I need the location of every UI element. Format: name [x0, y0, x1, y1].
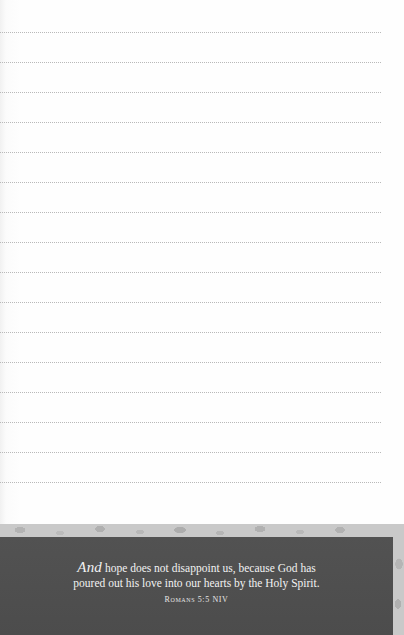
ruled-line: [0, 32, 381, 33]
verse-box: And hope does not disappoint us, because…: [0, 537, 393, 635]
ruled-lines: [0, 0, 381, 520]
journal-page: And hope does not disappoint us, because…: [0, 0, 404, 635]
ruled-line: [0, 212, 381, 213]
ruled-line: [0, 452, 381, 453]
ruled-line: [0, 152, 381, 153]
ruled-line: [0, 422, 381, 423]
ruled-line: [0, 92, 381, 93]
ruled-line: [0, 242, 381, 243]
ruled-line: [0, 272, 381, 273]
ruled-line: [0, 482, 381, 483]
ruled-line: [0, 302, 381, 303]
ruled-line: [0, 332, 381, 333]
verse-text: And hope does not disappoint us, because…: [0, 560, 393, 607]
ruled-line: [0, 182, 381, 183]
ruled-line: [0, 362, 381, 363]
verse-citation: Romans 5:5 NIV: [0, 592, 393, 607]
ruled-line: [0, 392, 381, 393]
verse-line-2: poured out his love into our hearts by t…: [73, 577, 319, 589]
ruled-line: [0, 122, 381, 123]
verse-lead-word: And: [77, 559, 102, 575]
verse-line-1: hope does not disappoint us, because God…: [102, 562, 316, 574]
floral-pattern-banner: And hope does not disappoint us, because…: [0, 524, 404, 635]
ruled-line: [0, 62, 381, 63]
